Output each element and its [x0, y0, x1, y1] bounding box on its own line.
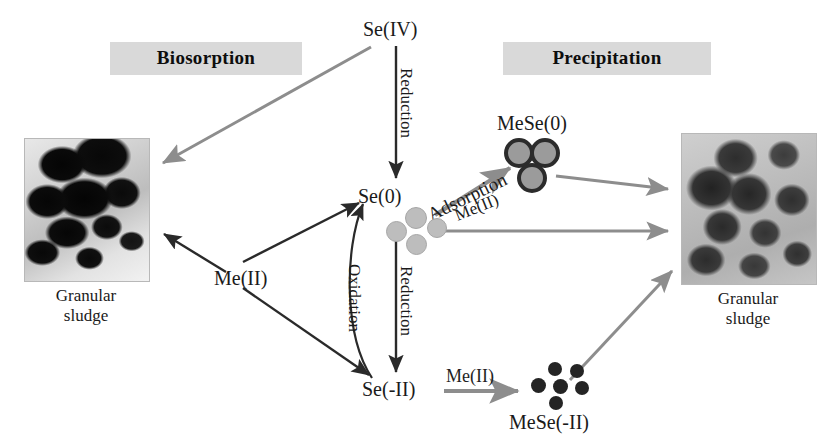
species-label-se-iv: Se(IV): [363, 18, 417, 40]
se0-colloid-particle: [427, 218, 447, 238]
caption-right-sludge: Granular sludge: [673, 289, 823, 329]
species-label-se-0: Se(0): [358, 185, 401, 207]
caption-left-line1: Granular: [11, 286, 161, 306]
species-label-me-ii-left: Me(II): [214, 267, 267, 289]
micrograph-right-granular-sludge: [681, 133, 817, 285]
se0-colloid-particle: [386, 221, 407, 242]
meseii-dot: [549, 396, 563, 410]
figure-canvas: Biosorption Precipitation Granular sludg…: [0, 0, 838, 446]
banner-precipitation: Precipitation: [503, 42, 711, 75]
caption-left-sludge: Granular sludge: [11, 286, 161, 326]
meseii-dot: [548, 362, 562, 376]
arrow-meii-to-se0: [243, 203, 359, 262]
caption-right-line2: sludge: [673, 309, 823, 329]
process-label-reduction-top: Reduction: [396, 68, 416, 138]
meseii-dot: [575, 381, 589, 395]
arrow-mese0-to-right-sludge: [556, 176, 668, 189]
species-label-mese-minus-ii: MeSe(-II): [509, 411, 589, 433]
banner-biosorption: Biosorption: [110, 42, 302, 75]
process-label-oxidation: Oxidation: [344, 264, 364, 332]
meseii-dot: [531, 378, 546, 393]
se0-colloid-particle: [406, 234, 427, 255]
species-label-mese-0: MeSe(0): [497, 112, 567, 134]
caption-right-line1: Granular: [673, 289, 823, 309]
process-label-reduction-bottom: Reduction: [396, 266, 416, 336]
se0-colloid-particle: [405, 207, 427, 229]
species-label-se-minus-ii: Se(-II): [362, 378, 415, 400]
micrograph-left-granular-sludge: [24, 138, 150, 282]
meseii-dot: [570, 364, 584, 378]
mese0-sphere: [517, 163, 547, 193]
arrow-meseii-to-right-sludge: [570, 271, 672, 380]
species-label-me-ii-bottom: Me(II): [446, 366, 494, 386]
caption-left-line2: sludge: [11, 306, 161, 326]
meseii-dot: [553, 379, 568, 394]
